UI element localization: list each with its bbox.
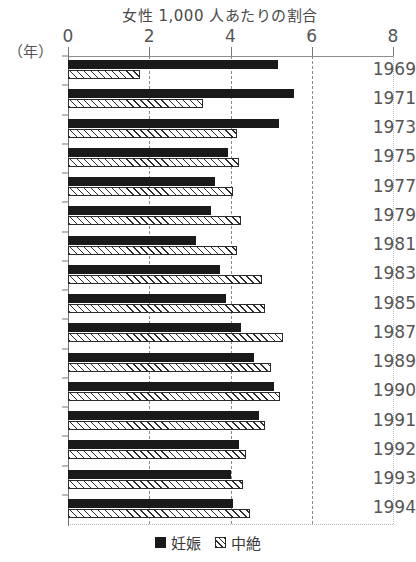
y-tick-label-1979: 1979 [358,205,416,225]
bar-中絶-1973 [68,129,237,138]
x-tick-mark-4 [231,47,232,56]
gridline-x-6 [312,56,313,524]
bar-中絶-1985 [68,304,265,313]
y-tick-label-1981: 1981 [358,234,416,254]
y-tick-mark-1977 [62,173,69,174]
y-tick-mark-1973 [62,114,69,115]
bar-中絶-1989 [68,363,271,372]
y-tick-mark-1992 [62,436,69,437]
y-tick-mark-1971 [62,85,69,86]
y-tick-label-1977: 1977 [358,176,416,196]
bar-妊娠-1993 [68,470,231,479]
y-tick-label-1975: 1975 [358,146,416,166]
bar-妊娠-1969 [68,60,278,69]
legend-swatch-hatched-icon [215,537,226,548]
bar-中絶-1991 [68,421,265,430]
bar-中絶-1993 [68,480,243,489]
y-tick-label-1991: 1991 [358,410,416,430]
y-tick-label-1993: 1993 [358,468,416,488]
bar-妊娠-1979 [68,206,211,215]
bar-妊娠-1977 [68,177,215,186]
bar-妊娠-1992 [68,440,239,449]
x-tick-label-2: 2 [144,26,155,46]
y-tick-label-1985: 1985 [358,293,416,313]
y-tick-mark-1979 [62,202,69,203]
legend-label-pregnancy: 妊娠 [171,532,201,553]
legend-item-pregnancy: 妊娠 [155,532,201,553]
bar-妊娠-1981 [68,236,196,245]
y-tick-mark-1975 [62,143,69,144]
legend-item-abortion: 中絶 [215,532,261,553]
y-tick-mark-1981 [62,231,69,232]
y-tick-mark-1987 [62,319,69,320]
bar-妊娠-1989 [68,353,254,362]
y-tick-label-1983: 1983 [358,263,416,283]
chart-root: 女性 1,000 人あたりの割合 （年） 02468 1969197119731… [0,0,416,562]
y-tick-mark-1993 [62,465,69,466]
y-tick-label-1987: 1987 [358,322,416,342]
bar-中絶-1971 [68,99,203,108]
bar-中絶-1987 [68,333,283,342]
chart-legend: 妊娠 中絶 [0,532,416,553]
x-tick-label-0: 0 [63,26,74,46]
bar-妊娠-1973 [68,119,279,128]
y-tick-label-1994: 1994 [358,497,416,517]
y-tick-label-1992: 1992 [358,439,416,459]
y-tick-label-1971: 1971 [358,88,416,108]
y-tick-mark-1991 [62,407,69,408]
bar-妊娠-1991 [68,411,259,420]
y-tick-label-1990: 1990 [358,380,416,400]
y-tick-mark-1985 [62,290,69,291]
bar-妊娠-1985 [68,294,226,303]
y-tick-mark-1983 [62,260,69,261]
y-tick-mark-1990 [62,377,69,378]
y-tick-label-1973: 1973 [358,117,416,137]
x-tick-mark-2 [149,47,150,56]
bar-中絶-1992 [68,450,246,459]
y-tick-label-1969: 1969 [358,59,416,79]
y-tick-mark-1994 [62,494,69,495]
chart-title: 女性 1,000 人あたりの割合 [0,4,416,25]
bar-中絶-1994 [68,509,250,518]
legend-label-abortion: 中絶 [231,532,261,553]
y-axis-unit-label: （年） [8,40,53,61]
bar-中絶-1981 [68,246,237,255]
x-tick-label-8: 8 [388,26,399,46]
bar-妊娠-1990 [68,382,274,391]
bar-妊娠-1987 [68,323,241,332]
bar-中絶-1977 [68,187,233,196]
bar-妊娠-1994 [68,499,233,508]
bar-妊娠-1971 [68,89,294,98]
bar-中絶-1983 [68,275,262,284]
y-tick-label-1989: 1989 [358,351,416,371]
bar-中絶-1979 [68,216,241,225]
bar-中絶-1969 [68,70,140,79]
bar-妊娠-1975 [68,148,228,157]
bar-中絶-1975 [68,158,239,167]
x-tick-label-4: 4 [225,26,236,46]
x-tick-mark-6 [312,47,313,56]
bar-中絶-1990 [68,392,280,401]
y-tick-mark-1989 [62,348,69,349]
legend-swatch-solid-icon [155,537,166,548]
y-tick-mark-1969 [62,56,69,57]
x-tick-mark-8 [393,47,394,56]
plot-bottom-border [68,524,393,525]
x-tick-label-6: 6 [306,26,317,46]
bar-妊娠-1983 [68,265,220,274]
